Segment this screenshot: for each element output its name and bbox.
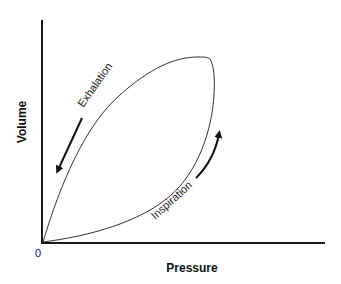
inspiration-curve	[43, 59, 214, 242]
exhalation-arrow-icon	[58, 118, 82, 170]
x-axis-label: Pressure	[166, 261, 218, 275]
inspiration-label: Inspiration	[148, 179, 194, 222]
y-axis-label: Volume	[15, 100, 29, 143]
exhalation-label: Exhalation	[75, 60, 114, 109]
pressure-volume-diagram: Exhalation Inspiration Volume Pressure 0	[0, 0, 341, 284]
origin-label: 0	[35, 247, 41, 259]
